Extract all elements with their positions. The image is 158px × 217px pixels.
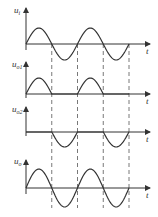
time-label: t: [146, 190, 149, 200]
axis-label: uo: [14, 156, 22, 167]
panel-output: uo t: [14, 156, 150, 207]
axis-label: uo2: [12, 104, 23, 115]
dashed-guides: [52, 44, 129, 208]
time-label: t: [146, 96, 149, 106]
time-label: t: [146, 46, 149, 56]
panel-input: ui t: [14, 5, 150, 60]
waveform-diagram: ui t uo1 t uo2 t uo t: [0, 0, 158, 217]
time-label: t: [146, 134, 149, 144]
axis-label: uo1: [12, 59, 23, 70]
axis-label: ui: [14, 5, 21, 16]
